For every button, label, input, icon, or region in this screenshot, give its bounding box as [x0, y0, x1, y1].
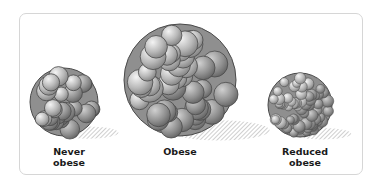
label-never-obese: Neverobese: [34, 146, 104, 168]
cell-cluster-obese: [124, 24, 270, 140]
label-line: Obese: [145, 146, 215, 157]
label-line: obese: [270, 157, 340, 168]
label-line: obese: [34, 157, 104, 168]
cell-cluster-never-obese: [30, 67, 118, 139]
label-reduced-obese: Reducedobese: [270, 146, 340, 168]
label-line: Never: [34, 146, 104, 157]
cell-cluster-reduced-obese: [268, 73, 351, 140]
label-obese: Obese: [145, 146, 215, 157]
label-line: Reduced: [270, 146, 340, 157]
